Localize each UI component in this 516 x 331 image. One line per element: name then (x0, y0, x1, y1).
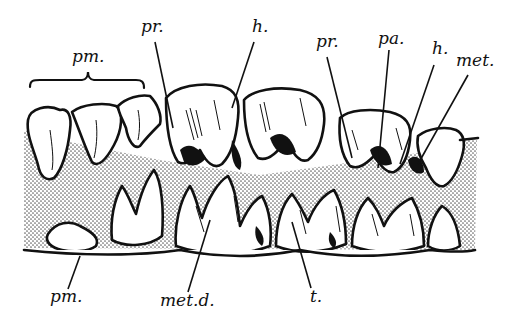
dental-diagram: pm. pr. h. pr. pa. h. met. pm. met.d. t. (0, 0, 516, 331)
label-met-d: met.d. (160, 292, 215, 309)
label-h-2: h. (432, 40, 448, 57)
premolar-bracket (30, 72, 144, 88)
label-t: t. (310, 288, 322, 305)
label-pa: pa. (378, 30, 404, 47)
label-pr-2: pr. (316, 33, 339, 50)
leader-pm-lower (68, 256, 80, 289)
label-met: met. (456, 52, 494, 69)
label-pm-upper: pm. (72, 48, 104, 65)
label-h-1: h. (252, 18, 268, 35)
label-pm-lower: pm. (50, 288, 82, 305)
label-pr-1: pr. (141, 18, 164, 35)
